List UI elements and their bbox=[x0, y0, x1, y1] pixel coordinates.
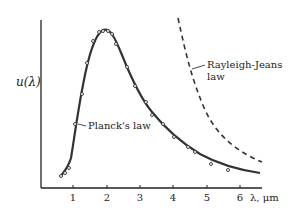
tick-label-5: 5 bbox=[204, 192, 210, 203]
planck-annotation: Planck's law bbox=[88, 120, 151, 131]
rj-annotation-line1: Rayleigh-Jeans bbox=[207, 59, 282, 70]
chart-canvas: 1 2 3 4 5 6 λ, μm u(λ) bbox=[0, 0, 300, 212]
planck-chart: 1 2 3 4 5 6 λ, μm u(λ) bbox=[0, 0, 300, 212]
tick-label-3: 3 bbox=[137, 192, 143, 203]
tick-label-6: 6 bbox=[237, 192, 243, 203]
tick-label-4: 4 bbox=[170, 192, 176, 203]
tick-label-2: 2 bbox=[104, 192, 110, 203]
rj-annotation-line2: law bbox=[207, 71, 225, 82]
y-axis-label: u(λ) bbox=[16, 75, 41, 89]
planck-curve bbox=[60, 30, 260, 177]
tick-label-1: 1 bbox=[70, 192, 76, 203]
rayleigh-jeans-curve bbox=[178, 18, 262, 162]
x-axis-label: λ, μm bbox=[250, 192, 279, 203]
planck-pointer bbox=[78, 124, 86, 126]
rj-pointer bbox=[192, 65, 205, 69]
